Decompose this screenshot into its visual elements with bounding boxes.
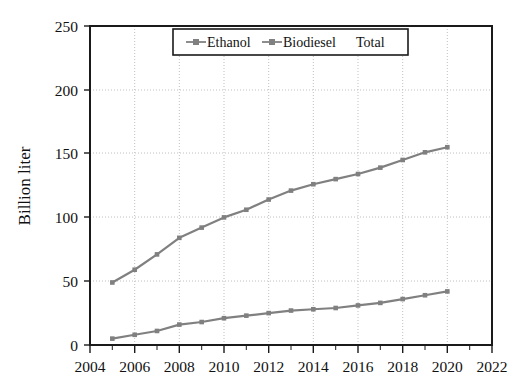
data-point [222,316,227,321]
data-point [333,306,338,311]
plot-area-background [90,26,492,345]
data-point [222,215,227,220]
data-point [356,303,361,308]
data-point [445,289,450,294]
x-tick-label-2004: 2004 [75,358,106,375]
x-tick-label-2016: 2016 [343,358,374,375]
legend-label-total: Total [356,35,385,50]
data-point [199,225,204,230]
legend-marker-ethanol [193,39,199,45]
data-point [378,165,383,170]
data-point [110,336,115,341]
y-tick-labels: 250 200 150 100 50 0 [55,18,79,354]
y-tick-label-150: 150 [55,145,79,162]
x-tick-labels: 2004 2006 2008 2010 2012 2014 2016 2018 … [75,358,508,375]
data-point [244,313,249,318]
x-tick-label-2018: 2018 [387,358,418,375]
x-tick-label-2010: 2010 [209,358,240,375]
data-point [244,207,249,212]
data-point [378,301,383,306]
y-tick-label-0: 0 [70,337,78,354]
data-point [155,252,160,257]
y-tick-label-250: 250 [55,18,79,35]
data-point [400,297,405,302]
data-point [423,293,428,298]
data-point [177,236,182,241]
y-axis-title: Billion liter [15,146,34,225]
data-point [266,197,271,202]
chart-figure: 250 200 150 100 50 0 2004 2006 2008 2010… [0,0,532,392]
legend: Ethanol Biodiesel Total [173,29,408,55]
data-point [155,329,160,334]
x-tick-label-2008: 2008 [164,358,195,375]
y-tick-label-200: 200 [55,82,79,99]
data-point [333,177,338,182]
y-tick-label-50: 50 [63,273,79,290]
x-tick-label-2022: 2022 [477,358,508,375]
data-point [199,320,204,325]
data-point [311,182,316,187]
data-point [400,158,405,163]
x-tick-label-2014: 2014 [298,358,329,375]
y-tick-label-100: 100 [55,209,79,226]
data-point [132,267,137,272]
x-tick-label-2006: 2006 [119,358,150,375]
x-tick-label-2012: 2012 [253,358,284,375]
legend-marker-biodiesel [269,39,275,45]
data-point [311,307,316,312]
data-point [266,311,271,316]
legend-label-biodiesel: Biodiesel [283,35,336,50]
data-point [177,322,182,327]
data-point [356,172,361,177]
data-point [445,145,450,150]
data-point [110,280,115,285]
data-point [132,332,137,337]
line-chart: 250 200 150 100 50 0 2004 2006 2008 2010… [0,0,532,392]
data-point [289,308,294,313]
data-point [423,150,428,155]
legend-item-total[interactable]: Total [356,35,385,50]
legend-label-ethanol: Ethanol [207,35,251,50]
data-point [289,188,294,193]
x-tick-label-2020: 2020 [432,358,463,375]
